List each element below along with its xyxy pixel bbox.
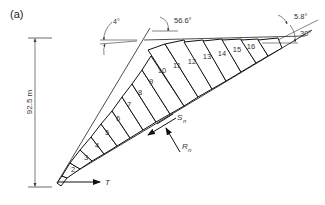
top-tilt-label: 4°	[113, 18, 120, 25]
slice-label-7: 7	[127, 100, 131, 109]
slice-label-2: 2	[71, 165, 75, 174]
height-label: 92.5 m	[25, 89, 34, 114]
face-dip-angle-marker: 56.6°	[152, 16, 192, 31]
base-dip-label: 30°	[300, 29, 311, 38]
slice-label-12: 12	[188, 57, 196, 66]
slice-label-3: 3	[84, 153, 88, 162]
base-plane-label: 5.8°	[294, 12, 307, 21]
normal-force-Rn: R n	[166, 128, 192, 153]
shear-subscript: n	[183, 118, 187, 124]
slice-label-4: 4	[95, 141, 99, 150]
slice-label-10: 10	[158, 66, 166, 75]
slice-label-13: 13	[203, 52, 211, 61]
slice-label-15: 15	[233, 45, 241, 54]
height-dimension: 92.5 m	[25, 38, 52, 187]
base-angle-markers: 5.8° 30°	[262, 12, 311, 43]
face-dip-label: 56.6°	[174, 16, 192, 25]
top-tilt-angle-marker: 4°	[100, 18, 137, 55]
toe-force-label: T	[105, 178, 111, 187]
slice-label-16: 16	[247, 42, 255, 51]
slice-label-11: 11	[173, 61, 181, 70]
slice-label-14: 14	[218, 49, 226, 58]
slice-label-8: 8	[138, 88, 142, 97]
slice-label-9: 9	[149, 77, 153, 86]
slice-label-5: 5	[105, 128, 109, 137]
normal-subscript: n	[188, 147, 192, 153]
toppling-slope-diagram: 92.5 m	[0, 0, 325, 205]
slices-clean	[57, 38, 282, 186]
slice-label-6: 6	[116, 114, 120, 123]
